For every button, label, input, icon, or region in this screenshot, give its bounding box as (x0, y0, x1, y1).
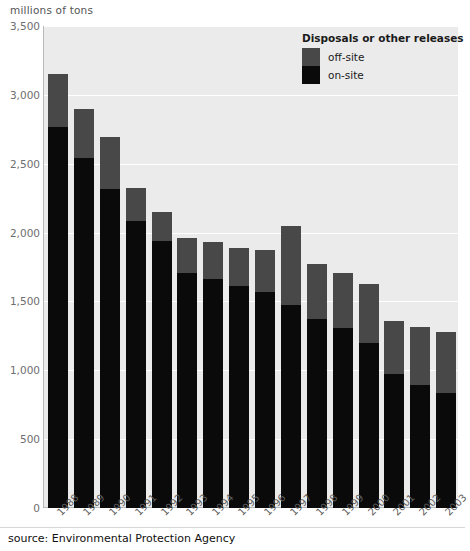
chart-legend: Disposals or other releases off-site on-… (296, 28, 470, 90)
y-axis-tick-label: 1,000 (0, 364, 40, 376)
legend-item-off-site: off-site (320, 48, 364, 66)
bar-segment-off-site (436, 332, 456, 393)
gridline (44, 26, 458, 27)
y-axis-tick-label: 2,000 (0, 227, 40, 239)
y-axis-tick-label: 500 (0, 433, 40, 445)
bar-1996 (255, 250, 275, 508)
gridline (44, 95, 458, 96)
bar-segment-on-site (229, 286, 249, 508)
bar-segment-off-site (203, 242, 223, 278)
legend-label-on-site: on-site (328, 69, 364, 81)
bar-1994 (203, 242, 223, 508)
bar-1997 (281, 226, 301, 508)
bar-1998 (307, 264, 327, 508)
bar-segment-on-site (203, 279, 223, 508)
y-axis-tick-label: 1,500 (0, 295, 40, 307)
bar-segment-off-site (177, 238, 197, 273)
y-axis-tick-label: 3,000 (0, 89, 40, 101)
bar-segment-off-site (100, 137, 120, 189)
bar-segment-off-site (126, 188, 146, 221)
bar-segment-on-site (74, 158, 94, 508)
bar-segment-off-site (333, 273, 353, 329)
bar-segment-on-site (410, 385, 430, 508)
source-note: source: Environmental Protection Agency (8, 532, 235, 545)
bar-1990 (100, 137, 120, 508)
bar-segment-on-site (333, 328, 353, 508)
y-axis-tick-label: 2,500 (0, 158, 40, 170)
legend-swatches (302, 48, 320, 84)
bar-1991 (126, 188, 146, 508)
legend-item-on-site: on-site (320, 66, 364, 84)
bar-segment-on-site (281, 305, 301, 508)
legend-label-off-site: off-site (328, 51, 364, 63)
bar-segment-on-site (255, 292, 275, 508)
footer-divider (0, 527, 465, 528)
bar-segment-off-site (307, 264, 327, 319)
bar-segment-on-site (100, 189, 120, 508)
bar-1992 (152, 212, 172, 508)
bar-1989 (74, 109, 94, 508)
bar-segment-off-site (384, 321, 404, 374)
bar-2003 (436, 332, 456, 508)
bar-segment-on-site (359, 343, 379, 508)
bar-segment-on-site (307, 319, 327, 508)
bar-segment-off-site (229, 248, 249, 287)
bar-segment-on-site (152, 241, 172, 508)
bar-1988 (48, 74, 68, 508)
bar-1999 (333, 273, 353, 508)
legend-swatch-off-site (302, 48, 320, 66)
bar-segment-off-site (255, 250, 275, 293)
bar-segment-on-site (48, 127, 68, 508)
bar-segment-on-site (384, 374, 404, 508)
legend-title: Disposals or other releases (302, 32, 464, 44)
bar-1993 (177, 238, 197, 508)
bar-segment-off-site (48, 74, 68, 126)
bar-segment-off-site (74, 109, 94, 158)
bar-2000 (359, 284, 379, 508)
bar-segment-off-site (281, 226, 301, 305)
y-axis-tick-label: 0 (0, 502, 40, 514)
plot-area (43, 26, 458, 508)
bar-2002 (410, 327, 430, 508)
bar-segment-on-site (177, 273, 197, 508)
bar-segment-on-site (126, 221, 146, 508)
bar-2001 (384, 321, 404, 508)
y-axis-tick-label: 3,500 (0, 20, 40, 32)
y-axis-tick-labels: 05001,0001,5002,0002,5003,0003,500 (0, 0, 40, 551)
bar-segment-off-site (410, 327, 430, 385)
bar-segment-on-site (436, 393, 456, 508)
legend-swatch-on-site (302, 66, 320, 84)
bar-1995 (229, 248, 249, 508)
bar-segment-off-site (152, 212, 172, 241)
bar-segment-off-site (359, 284, 379, 343)
